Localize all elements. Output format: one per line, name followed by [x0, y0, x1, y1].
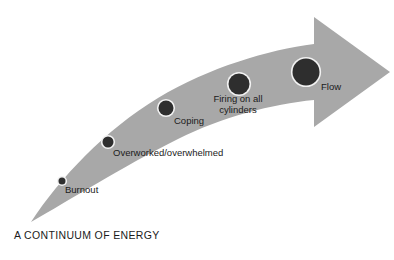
stage-label-line: Flow [321, 81, 341, 92]
stage-label-flow: Flow [321, 81, 341, 92]
diagram-caption: A CONTINUUM OF ENERGY [14, 229, 160, 241]
stage-label-line: Overworked/overwhelmed [113, 147, 223, 158]
stage-label-coping: Coping [174, 115, 204, 126]
stage-marker-flow [293, 59, 320, 86]
stage-label-line: Firing on all [199, 93, 277, 104]
stage-label-line: Burnout [65, 184, 98, 195]
stage-label-line: cylinders [199, 104, 277, 115]
continuum-diagram [0, 0, 394, 260]
stage-marker-overworked-overwhelmed [103, 137, 114, 148]
stage-label-burnout: Burnout [65, 184, 98, 195]
stage-marker-coping [159, 101, 174, 116]
diagram-canvas: BurnoutOverworked/overwhelmedCopingFirin… [0, 0, 394, 260]
stage-marker-firing-on-all-cylinders [229, 74, 250, 95]
stage-label-overworked-overwhelmed: Overworked/overwhelmed [113, 147, 223, 158]
stage-label-line: Coping [174, 115, 204, 126]
stage-label-firing-on-all-cylinders: Firing on allcylinders [199, 93, 277, 115]
